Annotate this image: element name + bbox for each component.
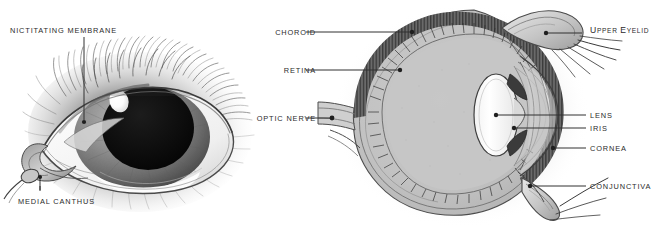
label-choroid: CHOROID xyxy=(246,28,316,37)
optic-nerve-point xyxy=(330,116,335,121)
label-iris: IRIS xyxy=(590,124,608,133)
upper-eyelid-small-pper: PPER xyxy=(597,27,618,34)
upper-eyelid-small-yelid: YELID xyxy=(627,27,650,34)
label-conjunctiva: CONJUNCTIVA xyxy=(590,182,651,191)
upper-eyelid-point xyxy=(544,31,548,35)
eye-cross-section-panel: CHOROID RETINA OPTIC NERVE UPPER EYELID … xyxy=(324,0,647,228)
conjunctiva-point xyxy=(528,184,532,188)
label-upper-eyelid: UPPER EYELID xyxy=(590,26,649,35)
label-retina: RETINA xyxy=(246,66,316,75)
cornea-point xyxy=(551,146,555,150)
label-nictitating-membrane: NICTITATING MEMBRANE xyxy=(10,26,117,35)
upper-eyelid-initial-u: U xyxy=(590,25,597,35)
nictitating-membrane-point xyxy=(82,120,86,124)
label-cornea: CORNEA xyxy=(590,144,627,153)
label-optic-nerve: OPTIC NERVE xyxy=(234,114,316,123)
choroid-point xyxy=(410,30,414,34)
lens-point xyxy=(494,113,498,117)
retina-point xyxy=(398,68,402,72)
medial-canthus-point xyxy=(38,175,42,179)
label-lens: LENS xyxy=(590,111,613,120)
iris-point xyxy=(512,126,516,130)
label-medial-canthus: MEDIAL CANTHUS xyxy=(18,197,95,206)
